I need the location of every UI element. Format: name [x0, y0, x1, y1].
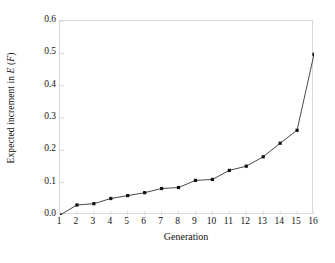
- data-point-marker: [211, 178, 214, 181]
- data-point-marker: [126, 194, 129, 197]
- data-point-marker: [75, 203, 78, 206]
- data-point-marker: [245, 165, 248, 168]
- y-axis-tick-label: 0.5: [26, 47, 56, 57]
- data-point-marker: [177, 186, 180, 189]
- data-point-marker: [92, 202, 95, 205]
- data-point-marker: [279, 142, 282, 145]
- data-point-marker: [160, 187, 163, 190]
- y-axis-title-close-paren: ): [6, 52, 16, 55]
- data-markers: [60, 53, 314, 215]
- data-point-marker: [143, 191, 146, 194]
- data-point-marker: [295, 129, 298, 132]
- x-axis-tick-labels: 12345678910111213141516: [59, 216, 313, 230]
- data-point-marker: [194, 179, 197, 182]
- y-axis-tick-label: 0.1: [26, 177, 56, 187]
- y-axis-title-symbol-e: E: [6, 67, 16, 73]
- y-axis-tick-label: 0.3: [26, 112, 56, 122]
- data-point-marker: [60, 213, 62, 215]
- y-axis-tick-label: 0.2: [26, 144, 56, 154]
- y-axis-tick-label: 0.6: [26, 15, 56, 25]
- line-chart-svg: [60, 21, 314, 215]
- plot-area: [59, 20, 313, 214]
- y-axis-tick-marks: [60, 21, 64, 215]
- chart-figure: Expected increment in E (F) 0.00.10.20.3…: [0, 0, 335, 263]
- x-axis-title: Generation: [59, 231, 313, 242]
- data-line: [60, 54, 314, 215]
- y-axis-title-prefix: Expected increment in: [6, 73, 16, 163]
- y-axis-tick-label: 0.4: [26, 80, 56, 90]
- data-point-marker: [228, 169, 231, 172]
- data-point-marker: [312, 53, 314, 56]
- x-axis-tick-label: 16: [303, 216, 323, 227]
- x-axis-tick-marks: [60, 211, 314, 215]
- data-point-marker: [262, 155, 265, 158]
- y-axis-title-symbol-f: F: [6, 55, 16, 61]
- y-axis-title-open-paren: (: [6, 61, 16, 67]
- y-axis-title: Expected increment in E (F): [0, 0, 22, 215]
- data-point-marker: [109, 197, 112, 200]
